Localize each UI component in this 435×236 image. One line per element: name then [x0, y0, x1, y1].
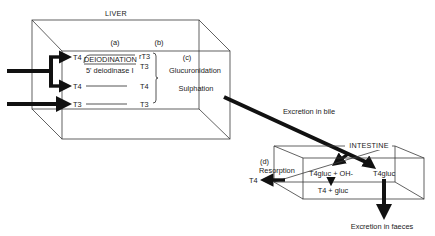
liver-title: LIVER — [105, 9, 127, 18]
label-a: (a) — [110, 38, 119, 47]
hydrolysis-reactants: T4gluc + OH- — [309, 169, 354, 178]
deiodination-label: DEIODINATION — [84, 55, 137, 64]
sulphation-label: Sulphation — [179, 84, 214, 93]
label-b: (b) — [154, 38, 163, 47]
label-c: (c) — [183, 53, 192, 62]
row3-input-t3: T3 — [73, 100, 82, 109]
brace — [153, 53, 158, 103]
unchanged-t4gluc: T4gluc — [373, 169, 395, 178]
thyroid-hormone-metabolism-diagram: LIVER (a) (b) (c) T4 DEIODINATION 5' dei… — [0, 0, 435, 236]
faeces-label: Excretion in faeces — [351, 222, 414, 231]
output-t3-deiod: T3 — [140, 62, 149, 71]
label-d: (d) — [260, 157, 269, 166]
row3-output-t3: T3 — [140, 100, 149, 109]
output-rt3: rT3 — [139, 52, 150, 61]
hydrolysis-products: T4 + gluc — [318, 186, 349, 195]
intestine-title: INTESTINE — [349, 141, 388, 150]
glucuronidation-label: Glucuronidation — [169, 66, 221, 75]
bile-arrow-to-t4gluc — [368, 163, 372, 166]
liver-back-face — [32, 20, 199, 109]
input-arrows — [7, 56, 67, 104]
resorption-label: Resorption — [259, 166, 295, 175]
row2-output-t4: T4 — [140, 82, 149, 91]
row2-input-t4: T4 — [73, 82, 82, 91]
bile-label: Excretion in bile — [283, 107, 335, 116]
row1-input-t4: T4 — [73, 53, 82, 62]
resorbed-t4: T4 — [249, 176, 258, 185]
deiodinase-label: 5' deiodinase I — [86, 66, 133, 75]
